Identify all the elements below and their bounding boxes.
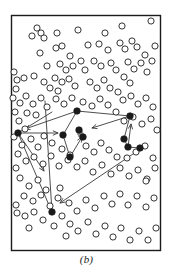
open-circle-marker xyxy=(38,192,44,198)
filled-circle-marker xyxy=(15,130,22,137)
open-circle-marker xyxy=(85,42,91,48)
open-circle-marker xyxy=(14,77,20,83)
open-circle-marker xyxy=(119,23,125,29)
open-circle-marker xyxy=(108,171,114,177)
open-circle-marker xyxy=(106,147,112,153)
open-circle-marker xyxy=(152,43,158,49)
open-circle-marker xyxy=(151,195,157,201)
open-circle-marker xyxy=(144,69,150,75)
open-circle-marker xyxy=(41,133,47,139)
open-circle-marker xyxy=(105,47,111,53)
open-circle-marker xyxy=(101,77,107,83)
open-circle-marker xyxy=(120,97,126,103)
open-circle-marker xyxy=(11,69,17,75)
open-circle-marker xyxy=(154,127,160,133)
open-circle-marker xyxy=(31,209,37,215)
open-circle-marker xyxy=(118,225,124,231)
open-circle-marker xyxy=(49,140,55,146)
open-circle-marker xyxy=(143,95,149,101)
open-circle-marker xyxy=(127,237,133,243)
open-circle-marker xyxy=(54,30,60,36)
open-circle-marker xyxy=(59,213,65,219)
open-circle-marker xyxy=(66,200,72,206)
open-circle-marker xyxy=(98,140,104,146)
open-circle-marker xyxy=(85,219,91,225)
open-circle-marker xyxy=(150,155,156,161)
open-circle-marker xyxy=(102,30,108,36)
open-circle-marker xyxy=(96,41,102,47)
open-circle-marker xyxy=(21,75,27,81)
open-circle-marker xyxy=(117,191,123,197)
open-circle-marker xyxy=(59,79,65,85)
open-circle-marker xyxy=(115,89,121,95)
open-circle-marker xyxy=(135,101,141,107)
open-circle-marker xyxy=(143,178,149,184)
open-circle-marker xyxy=(44,63,50,69)
open-circle-marker xyxy=(91,58,97,64)
open-circle-marker xyxy=(92,205,98,211)
open-circle-marker xyxy=(80,99,86,105)
open-circle-marker xyxy=(19,142,25,148)
open-circle-marker xyxy=(35,144,41,150)
open-circle-marker xyxy=(75,27,81,33)
figure-container: (b) xyxy=(0,0,173,272)
open-circle-marker xyxy=(143,204,149,210)
open-circle-marker xyxy=(29,33,35,39)
open-circle-marker xyxy=(63,67,69,73)
open-circle-marker xyxy=(134,193,140,199)
open-circle-marker xyxy=(51,223,57,229)
open-circle-marker xyxy=(98,63,104,69)
open-circle-marker xyxy=(10,95,16,101)
open-circle-marker xyxy=(114,154,120,160)
open-circle-marker xyxy=(17,175,23,181)
open-circle-marker xyxy=(22,213,28,219)
open-circle-marker xyxy=(121,118,127,124)
open-circle-marker xyxy=(107,85,113,91)
open-circle-marker xyxy=(14,210,20,216)
open-circle-marker xyxy=(110,234,116,240)
open-circle-marker xyxy=(125,59,131,65)
open-circle-marker xyxy=(31,154,37,160)
open-circle-marker xyxy=(90,169,96,175)
open-circle-marker xyxy=(117,165,123,171)
open-circle-marker xyxy=(89,103,95,109)
open-circle-marker xyxy=(12,109,18,115)
open-circle-marker xyxy=(83,143,89,149)
open-circle-marker xyxy=(55,195,61,201)
open-circle-marker xyxy=(72,83,78,89)
open-circle-marker xyxy=(30,101,36,107)
open-circle-marker xyxy=(152,165,158,171)
open-circle-marker xyxy=(91,149,97,155)
open-circle-marker xyxy=(63,233,69,239)
filled-circle-marker xyxy=(121,136,128,143)
open-circle-marker xyxy=(40,217,46,223)
open-circle-marker xyxy=(102,223,108,229)
open-circle-marker xyxy=(67,53,73,59)
open-circle-marker xyxy=(28,136,34,142)
open-circle-marker xyxy=(109,201,115,207)
open-circle-marker xyxy=(150,104,156,110)
open-circle-marker xyxy=(59,146,65,152)
open-circle-marker xyxy=(23,158,29,164)
open-circle-marker xyxy=(139,121,145,127)
open-circle-marker xyxy=(44,104,50,110)
open-circle-marker xyxy=(128,93,134,99)
open-circle-marker xyxy=(30,198,36,204)
open-circle-marker xyxy=(121,74,127,80)
open-circle-marker xyxy=(43,187,49,193)
open-circle-marker xyxy=(82,158,88,164)
open-circle-marker xyxy=(47,203,53,209)
open-circle-marker xyxy=(26,225,32,231)
open-circle-marker xyxy=(145,237,151,243)
open-circle-marker xyxy=(87,79,93,85)
open-circle-marker xyxy=(31,73,37,79)
open-circle-marker xyxy=(127,80,133,86)
open-circle-marker xyxy=(83,197,89,203)
open-circle-marker xyxy=(21,193,27,199)
filled-circle-marker xyxy=(137,145,144,152)
open-circle-marker xyxy=(101,193,107,199)
open-circle-marker xyxy=(122,46,128,52)
filled-circle-marker xyxy=(74,108,81,115)
open-circle-marker xyxy=(148,18,154,24)
open-circle-marker xyxy=(129,38,135,44)
